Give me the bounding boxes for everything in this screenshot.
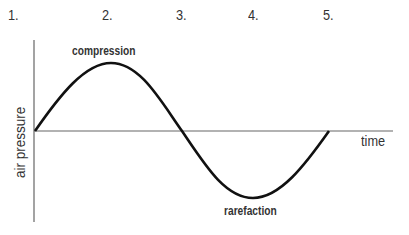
y-axis-label: air pressure	[11, 107, 28, 178]
x-axis-label: time	[361, 132, 385, 149]
compression-label: compression	[72, 44, 135, 58]
waveform-diagram	[0, 0, 409, 235]
rarefaction-label: rarefaction	[224, 204, 277, 218]
